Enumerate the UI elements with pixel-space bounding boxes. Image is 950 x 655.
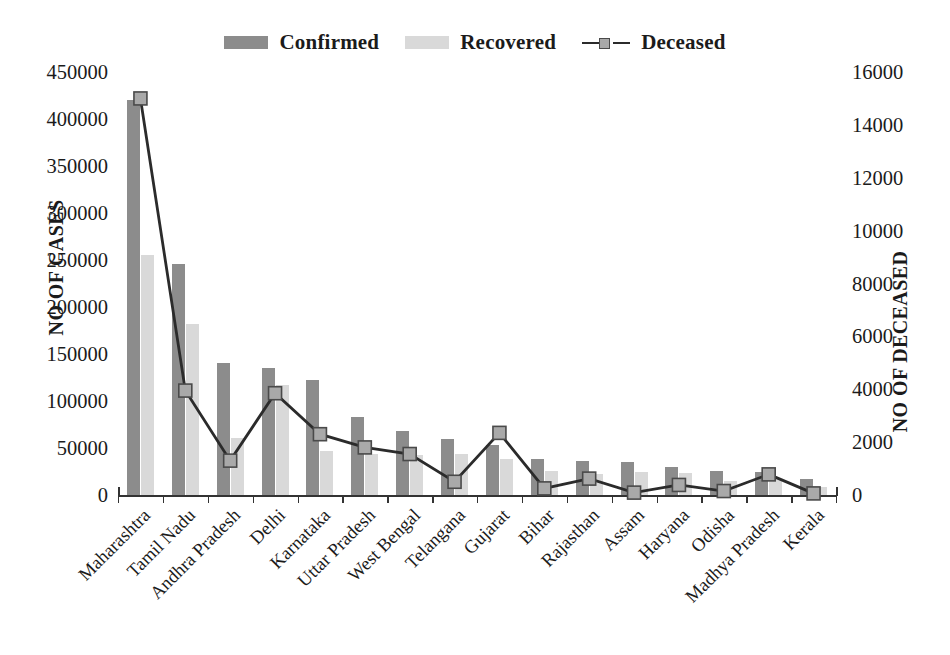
covid-dual-axis-chart: Confirmed Recovered Deceased 05000010000… [0, 0, 950, 655]
x-axis-category-labels: MaharashtraTamil NaduAndhra PradeshDelhi… [0, 0, 950, 655]
x-axis-left-cap [118, 487, 120, 496]
x-axis-right-cap [836, 487, 838, 496]
